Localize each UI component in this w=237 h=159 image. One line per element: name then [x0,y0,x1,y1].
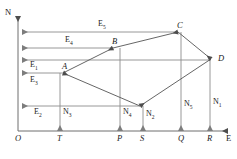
axis-tick-label-P: P [117,134,122,143]
easting-label-E5: E5 [98,20,106,30]
n-axis-label: N [5,8,11,17]
e-axis-label: E [226,134,231,143]
northing-label-N5: N5 [184,100,193,110]
northing-label-N4: N4 [123,108,132,118]
point-label-D: D [218,54,224,63]
axis-tick-label-Q: Q [178,134,184,143]
easting-label-E2: E2 [34,108,42,118]
easting-label-E3: E3 [30,76,38,86]
traverse-edge-D-V [140,59,211,106]
northing-label-N3: N3 [63,108,72,118]
northing-label-N2: N2 [146,110,155,120]
northing-label-N1: N1 [213,98,222,108]
traverse-edge-A-B [63,48,113,73]
axis-tick-label-O: O [15,134,21,143]
traverse-edge-V-A [63,73,140,106]
traverse-polyline-group [63,32,211,106]
easting-label-E1: E1 [30,61,38,71]
point-label-C: C [177,21,183,30]
traverse-edge-C-D [178,32,211,59]
easting-label-E4: E4 [65,36,73,46]
traverse-edge-B-C [113,32,178,48]
diagram-canvas: E5E4E1E3E2N3N4N2N5N1ABCDOTPSQRNE [0,0,237,159]
axis-tick-label-R: R [207,134,212,143]
axis-tick-label-S: S [140,134,144,143]
point-label-A: A [62,62,67,71]
point-label-B: B [112,37,117,46]
axis-tick-label-T: T [57,134,62,143]
